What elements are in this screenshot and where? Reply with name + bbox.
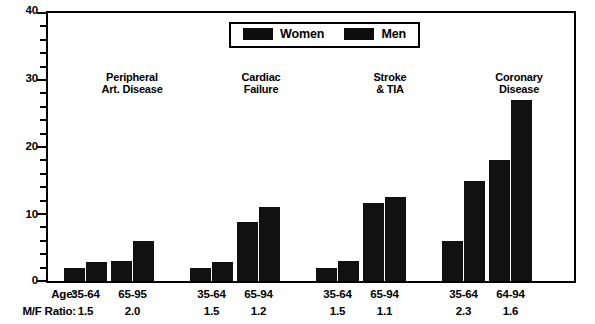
legend-swatch-men-icon bbox=[344, 28, 374, 40]
age-cell-1: 65-95 bbox=[118, 288, 146, 300]
ratio-cell-2: 1.5 bbox=[204, 305, 219, 317]
legend-label-men: Men bbox=[381, 28, 406, 41]
y-axis-label-10: 10 bbox=[26, 209, 38, 221]
y-axis: 40 30 20 10 0 bbox=[0, 11, 46, 283]
y-axis-label-30: 30 bbox=[26, 73, 38, 85]
ratio-cell-1: 2.0 bbox=[125, 305, 140, 317]
ratio-cell-5: 1.1 bbox=[377, 305, 392, 317]
age-cell-6: 35-64 bbox=[449, 288, 477, 300]
bar-chart: 40 30 20 10 0 Women Men Peripheral Art. … bbox=[0, 0, 595, 324]
age-row-label: Age: bbox=[0, 288, 76, 300]
bar-men-3-0 bbox=[464, 181, 485, 282]
ratio-cell-7: 1.6 bbox=[503, 305, 518, 317]
bar-men-1-0 bbox=[212, 262, 233, 281]
ratio-cell-0: 1.5 bbox=[78, 305, 93, 317]
group-title-coronary-disease: Coronary Disease bbox=[449, 71, 589, 95]
age-cell-0: 35-64 bbox=[71, 288, 99, 300]
bars-layer bbox=[48, 13, 574, 281]
bottom-annotation-table: Age: M/F Ratio: 35-6465-9535-6465-9435-6… bbox=[0, 286, 595, 324]
ratio-cell-4: 1.5 bbox=[330, 305, 345, 317]
bar-women-2-1 bbox=[363, 203, 384, 281]
bar-men-0-1 bbox=[133, 241, 154, 281]
group-title-cardiac-failure: Cardiac Failure bbox=[191, 71, 331, 95]
bar-women-1-0 bbox=[190, 268, 211, 281]
ratio-row-label: M/F Ratio: bbox=[0, 305, 76, 317]
y-tick-0 bbox=[37, 280, 46, 282]
age-cell-3: 65-94 bbox=[244, 288, 272, 300]
bar-women-0-1 bbox=[111, 261, 132, 281]
bar-men-2-0 bbox=[338, 261, 359, 281]
y-tick-40 bbox=[37, 12, 46, 14]
legend-label-women: Women bbox=[280, 28, 324, 41]
group-title-peripheral-art-disease: Peripheral Art. Disease bbox=[62, 71, 202, 95]
legend-swatch-women-icon bbox=[243, 28, 273, 40]
y-axis-label-40: 40 bbox=[26, 5, 38, 17]
y-axis-label-20: 20 bbox=[26, 141, 38, 153]
bar-men-0-0 bbox=[86, 262, 107, 281]
bar-women-3-0 bbox=[442, 241, 463, 281]
bar-women-2-0 bbox=[316, 268, 337, 281]
age-cell-4: 35-64 bbox=[323, 288, 351, 300]
legend-entry-men: Men bbox=[344, 28, 406, 41]
bar-men-3-1 bbox=[511, 100, 532, 281]
age-cell-7: 64-94 bbox=[496, 288, 524, 300]
bar-women-3-1 bbox=[489, 160, 510, 281]
age-cell-5: 65-94 bbox=[370, 288, 398, 300]
ratio-cell-6: 2.3 bbox=[456, 305, 471, 317]
bar-men-2-1 bbox=[385, 197, 406, 281]
y-tick-30 bbox=[37, 79, 46, 81]
age-cell-2: 35-64 bbox=[197, 288, 225, 300]
legend: Women Men bbox=[229, 22, 420, 48]
y-tick-20 bbox=[37, 146, 46, 148]
group-title-stroke-tia: Stroke & TIA bbox=[320, 71, 460, 95]
bar-women-1-1 bbox=[237, 222, 258, 281]
bar-women-0-0 bbox=[64, 268, 85, 281]
y-tick-10 bbox=[37, 213, 46, 215]
ratio-cell-3: 1.2 bbox=[251, 305, 266, 317]
plot-area bbox=[46, 11, 576, 283]
legend-entry-women: Women bbox=[243, 28, 324, 41]
bar-men-1-1 bbox=[259, 207, 280, 281]
